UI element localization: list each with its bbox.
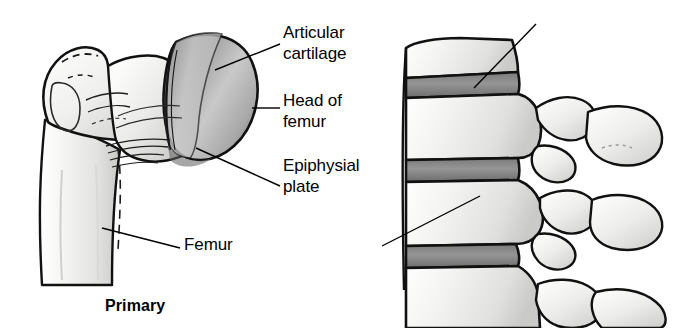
intervertebral-disc-3 — [406, 244, 519, 268]
panel-secondary: Intervertebral disc Body of vertebra Sec… — [340, 0, 677, 328]
anatomy-figure: Articular cartilage Head of femur Epiphy… — [0, 0, 677, 328]
vertebral-body-2 — [406, 94, 541, 160]
inferior-process-3 — [532, 234, 576, 270]
spinous-process-2 — [586, 106, 662, 165]
label-head-of-femur: Head of femur — [283, 90, 342, 132]
panel-primary: Articular cartilage Head of femur Epiphy… — [0, 0, 340, 328]
intervertebral-disc-2 — [406, 158, 520, 182]
spinous-process-3 — [590, 195, 662, 250]
caption-primary: Primary — [105, 297, 165, 315]
vertebral-body-3 — [406, 180, 543, 246]
label-femur: Femur — [184, 234, 233, 255]
inferior-process-2 — [532, 146, 576, 183]
vertebral-body-4 — [406, 266, 540, 328]
articular-process-3 — [540, 191, 597, 234]
vertebrae-illustration — [340, 0, 677, 328]
leader-epiphysial-plate — [196, 148, 280, 186]
spinous-process-4 — [592, 289, 666, 328]
label-articular-cartilage: Articular cartilage — [283, 22, 346, 64]
